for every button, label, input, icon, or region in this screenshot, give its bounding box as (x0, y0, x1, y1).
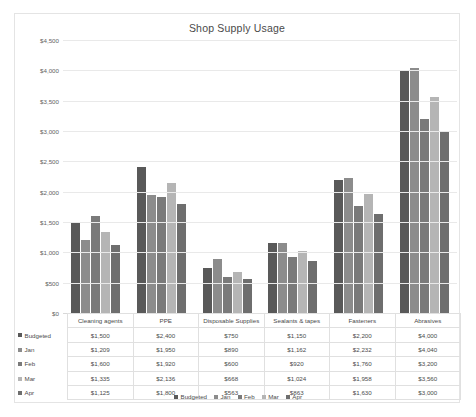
legend-label: Mar (268, 393, 279, 400)
table-cell: $2,400 (133, 328, 199, 342)
series-color-swatch-icon (18, 348, 22, 352)
bar[interactable] (213, 259, 222, 313)
bars-layer (63, 40, 457, 313)
legend-color-swatch-icon (214, 395, 218, 399)
series-color-swatch-icon (18, 333, 22, 337)
plot-area: $4,500$4,000$3,500$3,000$2,500$2,000$1,5… (15, 40, 461, 313)
table-row: Budgeted$1,500$2,400$750$1,150$2,200$4,0… (15, 328, 461, 342)
table-cell: $1,920 (133, 357, 199, 371)
bar-group (129, 40, 195, 313)
table-row: Feb$1,600$1,920$600$920$1,760$3,200 (15, 357, 461, 371)
gridline (63, 222, 457, 223)
table-cell: $4,040 (395, 342, 461, 356)
gridline (63, 131, 457, 132)
legend-color-swatch-icon (262, 395, 266, 399)
table-row-label: Jan (25, 346, 35, 353)
table-cell: $1,760 (330, 357, 396, 371)
y-axis-tick-label: $2,000 (40, 188, 59, 195)
y-axis-tick-label: $3,500 (40, 97, 59, 104)
table-row-label: Budgeted (25, 332, 52, 339)
data-table: Cleaning agentsPPEDisposable SuppliesSea… (15, 313, 461, 400)
bar[interactable] (268, 243, 277, 313)
table-header: Cleaning agentsPPEDisposable SuppliesSea… (15, 314, 461, 328)
y-axis-tick-label: $4,500 (40, 37, 59, 44)
table-cell: $668 (199, 371, 265, 385)
table-column-header: Sealants & tapes (264, 314, 330, 328)
table-body: Budgeted$1,500$2,400$750$1,150$2,200$4,0… (15, 328, 461, 400)
series-color-swatch-icon (18, 362, 22, 366)
legend-item[interactable]: Mar (262, 393, 279, 400)
legend-item[interactable]: Jan (214, 393, 230, 400)
bar[interactable] (137, 167, 146, 313)
table-cell: $2,200 (330, 328, 396, 342)
table-cell: $1,950 (133, 342, 199, 356)
bar[interactable] (334, 180, 343, 313)
bar[interactable] (243, 279, 252, 313)
y-axis: $4,500$4,000$3,500$3,000$2,500$2,000$1,5… (15, 40, 63, 313)
bar[interactable] (410, 68, 419, 313)
table-column-header: PPE (133, 314, 199, 328)
table-cell: $1,600 (68, 357, 134, 371)
table-row-header: Jan (15, 342, 68, 356)
y-axis-tick-label: $500 (45, 279, 59, 286)
bar[interactable] (374, 214, 383, 313)
bar[interactable] (288, 257, 297, 313)
gridline (63, 283, 457, 284)
table-cell: $1,209 (68, 342, 134, 356)
table-column-header: Disposable Supplies (199, 314, 265, 328)
legend-label: Feb (244, 393, 255, 400)
table-column-header: Abrasives (395, 314, 461, 328)
table-row-label: Feb (25, 360, 36, 367)
table-cell: $750 (199, 328, 265, 342)
table-cell: $4,000 (395, 328, 461, 342)
table-row-label: Mar (25, 375, 36, 382)
legend-item[interactable]: Feb (238, 393, 255, 400)
bar[interactable] (233, 272, 242, 313)
bar[interactable] (177, 204, 186, 313)
bar-group (260, 40, 326, 313)
bar-group (326, 40, 392, 313)
table-row-header: Mar (15, 371, 68, 385)
legend-label: Jan (221, 393, 231, 400)
bar[interactable] (71, 222, 80, 313)
table-row: Mar$1,335$2,136$668$1,024$1,958$3,560 (15, 371, 461, 385)
table-cell: $1,500 (68, 328, 134, 342)
bar-group (63, 40, 129, 313)
table-corner-cell (15, 314, 68, 328)
bar[interactable] (167, 183, 176, 313)
bar[interactable] (308, 261, 317, 313)
table-cell: $2,136 (133, 371, 199, 385)
y-axis-tick-label: $1,000 (40, 249, 59, 256)
bar[interactable] (364, 194, 373, 313)
grid-area (63, 40, 457, 313)
table-column-header: Fasteners (330, 314, 396, 328)
bar[interactable] (203, 268, 212, 314)
bar[interactable] (147, 195, 156, 313)
legend-item[interactable]: Budgeted (174, 393, 207, 400)
chart-container[interactable]: Shop Supply Usage $4,500$4,000$3,500$3,0… (14, 13, 460, 403)
legend-label: Apr (292, 393, 302, 400)
bar-group (194, 40, 260, 313)
gridline (63, 70, 457, 71)
bar[interactable] (101, 232, 110, 313)
legend-color-swatch-icon (238, 395, 242, 399)
table-cell: $1,162 (264, 342, 330, 356)
bar[interactable] (91, 216, 100, 313)
bar[interactable] (420, 119, 429, 313)
bar-group (391, 40, 457, 313)
table-column-header: Cleaning agents (68, 314, 134, 328)
gridline (63, 252, 457, 253)
table-header-row: Cleaning agentsPPEDisposable SuppliesSea… (15, 314, 461, 328)
bar[interactable] (81, 240, 90, 313)
legend-item[interactable]: Apr (286, 393, 302, 400)
gridline (63, 192, 457, 193)
series-color-swatch-icon (18, 377, 22, 381)
gridline (63, 161, 457, 162)
gridline (63, 101, 457, 102)
bar[interactable] (111, 245, 120, 313)
y-axis-tick-label: $1,500 (40, 219, 59, 226)
bar[interactable] (344, 178, 353, 313)
table-row-header: Budgeted (15, 328, 68, 342)
bar[interactable] (430, 97, 439, 313)
bar[interactable] (157, 197, 166, 313)
